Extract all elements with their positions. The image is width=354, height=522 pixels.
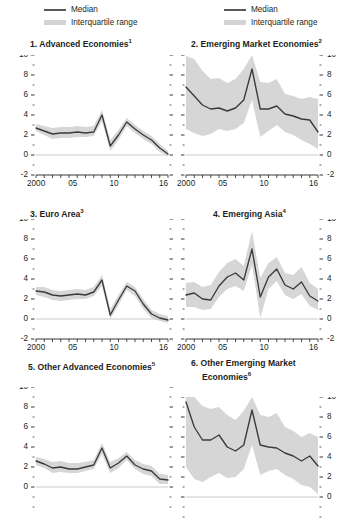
plot-area-6: 0246810 (160, 397, 344, 522)
panel-title-3-superscript: 3 (80, 208, 83, 214)
plot-area-2: -202468102000051016 (160, 55, 344, 201)
panel-emerging-market-economies: 2. Emerging Market Economies2 -202468102… (177, 33, 354, 205)
panel-title-1-superscript: 1 (129, 38, 132, 44)
panel-title-6-text: 6. Other Emerging Market (191, 358, 296, 368)
y-tick-label: -2 (10, 171, 28, 179)
panel-title-4-text: 4. Emerging Asia (213, 209, 282, 219)
y-tick-label: 2 (10, 131, 28, 139)
panel-title-5-superscript: 5 (152, 361, 155, 367)
panel-title-6-superscript: 6 (248, 371, 251, 377)
x-tick-label: 2000 (177, 344, 195, 352)
y-tick-label: 8 (327, 71, 344, 79)
x-tick-label: 05 (218, 180, 227, 188)
panel-advanced-economies: 1. Advanced Economies1 -2024681020000510… (0, 33, 177, 205)
panel-title-1-text: 1. Advanced Economies (30, 39, 129, 49)
y-tick-label: 10 (10, 387, 28, 391)
y-tick-label: -2 (327, 335, 344, 343)
y-tick-label: 8 (327, 413, 344, 421)
panel-title-2-text: 2. Emerging Market Economies (191, 39, 319, 49)
y-tick-label: 4 (327, 275, 344, 283)
y-tick-label: 6 (10, 423, 28, 431)
chart-svg-6 (160, 397, 344, 522)
panel-other-advanced-economies: 5. Other Advanced Economies5 0246810 (0, 355, 177, 513)
x-tick-label: 05 (218, 344, 227, 352)
x-tick-label: 2000 (27, 344, 45, 352)
panel-other-emerging-market-economies: 6. Other Emerging Market Economies6 0246… (177, 355, 354, 513)
y-tick-label: 4 (327, 453, 344, 461)
legend-item-median-left: Median (44, 4, 137, 15)
median-line-swatch-icon (44, 9, 66, 11)
panel-emerging-asia: 4. Emerging Asia4 -202468102000051016 (177, 205, 354, 355)
legend-row: Median Interquartile range Median Interq… (0, 0, 354, 30)
y-tick-label: 6 (327, 255, 344, 263)
x-tick-label: 10 (260, 344, 269, 352)
panel-title-3-text: 3. Euro Area (30, 209, 80, 219)
panel-title-2: 2. Emerging Market Economies2 (191, 36, 322, 49)
y-tick-label: 0 (327, 151, 344, 159)
panel-title-3: 3. Euro Area3 (30, 206, 84, 219)
panel-title-2-superscript: 2 (319, 38, 322, 44)
y-tick-label: 6 (327, 433, 344, 441)
y-tick-label: 8 (10, 235, 28, 243)
x-tick-label: 2000 (27, 180, 45, 188)
median-line-swatch-icon (224, 9, 246, 11)
panel-title-5-text: 5. Other Advanced Economies (28, 362, 152, 372)
legend-label-iqr-left: Interquartile range (71, 18, 137, 27)
panel-title-5: 5. Other Advanced Economies5 (28, 359, 155, 372)
y-tick-label: -2 (10, 335, 28, 343)
legend-label-median-left: Median (71, 5, 98, 14)
x-tick-label: 2000 (177, 180, 195, 188)
y-tick-label: 6 (327, 91, 344, 99)
x-tick-label: 05 (68, 180, 77, 188)
iqr-band-area (186, 231, 318, 318)
x-tick-label: 10 (260, 180, 269, 188)
y-tick-label: 0 (327, 493, 344, 501)
panel-title-6-line2-text: Economies (202, 371, 248, 381)
legend-left: Median Interquartile range (44, 4, 137, 30)
x-tick-label: 16 (309, 180, 318, 188)
legend-item-iqr-left: Interquartile range (44, 17, 137, 28)
y-tick-label: 10 (10, 55, 28, 59)
y-tick-label: 4 (10, 111, 28, 119)
x-tick-label: 10 (110, 180, 119, 188)
y-tick-label: 2 (327, 295, 344, 303)
y-tick-label: 8 (327, 235, 344, 243)
y-tick-label: 0 (10, 483, 28, 491)
panel-title-4: 4. Emerging Asia4 (213, 206, 286, 219)
legend-item-median-right: Median (224, 4, 317, 15)
x-tick-label: 05 (68, 344, 77, 352)
y-tick-label: 10 (327, 397, 344, 401)
y-tick-label: 8 (10, 403, 28, 411)
iqr-band-swatch-icon (224, 20, 246, 25)
y-tick-label: 10 (327, 55, 344, 59)
panel-title-6-line2: Economies6 (191, 369, 341, 382)
legend-label-iqr-right: Interquartile range (251, 18, 317, 27)
y-tick-label: 10 (10, 219, 28, 223)
y-tick-label: 4 (10, 443, 28, 451)
y-tick-label: 2 (327, 131, 344, 139)
y-tick-label: 4 (10, 275, 28, 283)
y-tick-label: 0 (327, 315, 344, 323)
y-tick-label: 0 (10, 315, 28, 323)
x-tick-label: 10 (110, 344, 119, 352)
y-tick-label: -2 (327, 171, 344, 179)
iqr-band-swatch-icon (44, 20, 66, 25)
legend-item-iqr-right: Interquartile range (224, 17, 317, 28)
y-tick-label: 6 (10, 91, 28, 99)
y-tick-label: 6 (10, 255, 28, 263)
y-tick-label: 10 (327, 219, 344, 223)
y-tick-label: 2 (327, 473, 344, 481)
y-tick-label: 2 (10, 295, 28, 303)
y-tick-label: 8 (10, 71, 28, 79)
panel-title-1: 1. Advanced Economies1 (30, 36, 132, 49)
x-tick-label: 16 (309, 344, 318, 352)
y-tick-label: 0 (10, 151, 28, 159)
panel-title-6: 6. Other Emerging Market Economies6 (191, 358, 341, 382)
legend-label-median-right: Median (251, 5, 278, 14)
panel-euro-area: 3. Euro Area3 -202468102000051016 (0, 205, 177, 355)
panel-title-4-superscript: 4 (282, 208, 285, 214)
y-tick-label: 2 (10, 463, 28, 471)
plot-area-4: -202468102000051016 (160, 219, 344, 365)
y-tick-label: 4 (327, 111, 344, 119)
